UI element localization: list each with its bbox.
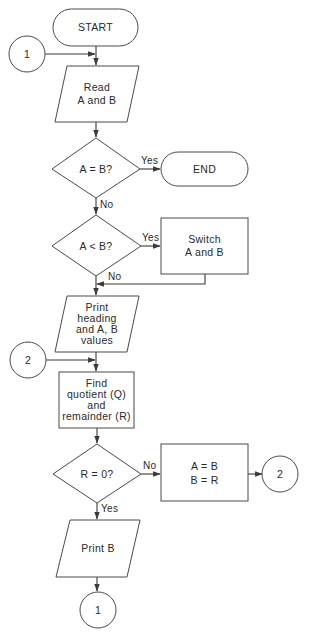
edge-label-less-yes: Yes <box>142 232 159 243</box>
assign-process: A = B B = R <box>161 444 248 501</box>
end-terminal: END <box>161 152 248 186</box>
read-input-node: Read A and B <box>55 66 139 122</box>
connector-1-label: 1 <box>24 48 30 60</box>
connector-2-exit: 2 <box>262 456 298 492</box>
edge-label-equal-no: No <box>100 199 114 210</box>
print-b-output-node: Print B <box>56 520 140 577</box>
find-quotient-process: Find quotient (Q) and remainder (R) <box>59 372 134 428</box>
assign-label-line-1: A = B <box>191 460 218 472</box>
connector-2-entry: 2 <box>10 342 46 378</box>
edge-label-remainder-no: No <box>143 460 157 471</box>
start-label: START <box>78 21 113 33</box>
edge-label-remainder-yes: Yes <box>101 503 118 514</box>
connector-1-exit-label: 1 <box>95 604 101 616</box>
switch-label-line-1: Switch <box>188 233 221 245</box>
decision-a-less-than-b-label: A < B? <box>79 240 112 252</box>
print-heading-output-node: Print heading and A, B values <box>55 296 139 352</box>
find-label-line-4: remainder (R) <box>62 410 131 422</box>
decision-a-equals-b-label: A = B? <box>79 163 112 175</box>
switch-label-line-2: A and B <box>185 246 224 258</box>
edge-label-equal-yes: Yes <box>141 155 158 166</box>
read-label-line-2: A and B <box>78 94 117 106</box>
connector-2-label: 2 <box>25 354 31 366</box>
decision-r-equals-zero-label: R = 0? <box>80 468 113 480</box>
edge-label-less-no: No <box>108 271 122 282</box>
connector-2-exit-label: 2 <box>277 468 283 480</box>
switch-process: Switch A and B <box>161 218 248 274</box>
print-b-label: Print B <box>81 542 115 554</box>
flowchart-canvas: START 1 Read A and B A = B? Yes No END A… <box>0 0 309 642</box>
end-label: END <box>193 163 216 175</box>
assign-label-line-2: B = R <box>190 474 218 486</box>
decision-a-less-than-b: A < B? Yes No <box>52 215 159 282</box>
start-terminal: START <box>53 9 138 46</box>
decision-a-equals-b: A = B? Yes No <box>52 138 158 210</box>
decision-r-equals-zero: R = 0? No Yes <box>53 444 157 514</box>
connector-1-exit: 1 <box>80 592 116 628</box>
print-heading-line-4: values <box>81 334 113 346</box>
read-label-line-1: Read <box>84 81 110 93</box>
connector-1-entry: 1 <box>9 36 45 72</box>
